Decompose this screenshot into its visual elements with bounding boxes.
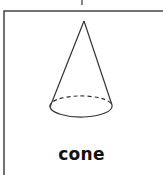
cone-right-edge: [84, 21, 112, 105]
cone-icon: [50, 21, 112, 117]
cone-left-edge: [50, 21, 84, 107]
shape-label: cone: [0, 144, 163, 164]
cone-base-visible-edge: [50, 105, 112, 117]
cone-base-hidden-edge: [50, 96, 112, 107]
